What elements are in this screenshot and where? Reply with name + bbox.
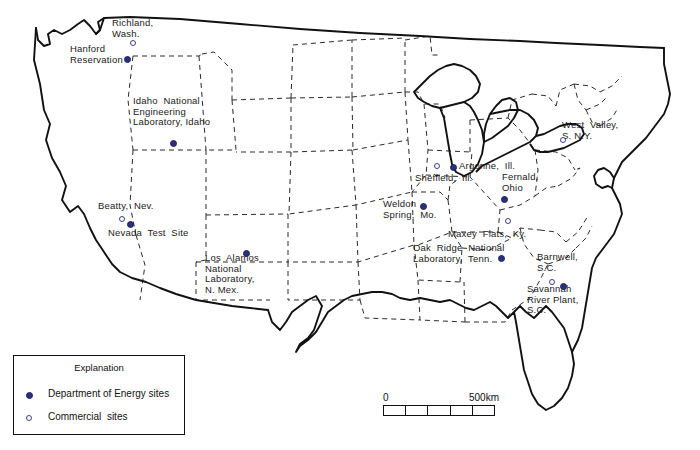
site-marker-barnwell-sc[interactable] (549, 279, 555, 285)
scale-segment (451, 406, 473, 415)
scale-segment (473, 406, 494, 415)
site-marker-sheffield-ill[interactable] (434, 163, 440, 169)
site-label-savannah-river-plant: Savannah River Plant, S.C. (527, 284, 579, 316)
scale-min-label: 0 (383, 392, 389, 403)
scale-bar: 0 500km (383, 392, 495, 416)
legend-label-doe-sites: Department of Energy sites (48, 388, 169, 399)
site-label-oak-ridge-national-lab: Oak Ridge National Laboratory, Tenn. (413, 243, 505, 264)
site-label-barnwell-sc: Barnwell, S.C. (537, 252, 578, 273)
site-label-los-alamos-national-lab: Los Alamos National Laboratory, N. Mex. (205, 253, 259, 295)
site-label-beatty-nev: Beatty, Nev. (98, 201, 154, 212)
site-label-sheffield-ill: Sheffield, Ill. (415, 173, 472, 184)
scale-bar-labels: 0 500km (383, 392, 495, 405)
site-label-nevada-test-site: Nevada Test Site (108, 228, 189, 239)
site-marker-fernald-ohio[interactable] (501, 196, 508, 203)
legend-title: Explanation (14, 362, 184, 373)
map-canvas: Richland, Wash. Hanford Reservation Idah… (0, 0, 700, 450)
site-marker-west-valley-ny[interactable] (560, 137, 566, 143)
site-label-fernald-ohio: Fernald, Ohio (502, 172, 538, 193)
site-label-idaho-national-lab: Idaho National Engineering Laboratory, I… (133, 96, 210, 128)
scale-bar-graphic (383, 405, 495, 416)
legend-panel: Explanation Department of Energy sites C… (13, 355, 185, 435)
site-marker-nevada-test-site[interactable] (127, 221, 134, 228)
site-label-argonne-ill: Argonne, Ill. (459, 161, 515, 172)
scale-segment (406, 406, 428, 415)
site-label-richland-wash: Richland, Wash. (112, 18, 153, 39)
legend-label-commercial-sites: Commercial sites (48, 411, 127, 422)
state-borders-layer (128, 36, 622, 322)
site-marker-weldon-spring-mo[interactable] (420, 203, 427, 210)
site-marker-argonne-ill[interactable] (450, 164, 457, 171)
site-marker-maxey-flats-ky[interactable] (505, 218, 511, 224)
site-label-weldon-spring-mo: Weldon Spring, Mo. (383, 199, 437, 220)
site-marker-beatty-nev[interactable] (119, 216, 125, 222)
site-label-maxey-flats-ky: Maxey Flats, Ky. (448, 229, 526, 240)
site-marker-hanford-reservation[interactable] (124, 56, 131, 63)
scale-max-label: 500km (469, 392, 499, 403)
legend-filled-dot-icon (26, 392, 33, 399)
scale-segment (428, 406, 450, 415)
scale-segment (384, 406, 406, 415)
site-marker-oak-ridge-national-lab[interactable] (498, 255, 505, 262)
site-marker-savannah-river-plant[interactable] (560, 283, 567, 290)
site-marker-richland-wash[interactable] (130, 40, 136, 46)
site-marker-los-alamos-national-lab[interactable] (243, 250, 250, 257)
site-label-west-valley-ny: West Valley, S. N.Y. (562, 120, 618, 141)
legend-open-circle-icon (26, 415, 32, 421)
site-marker-idaho-national-lab[interactable] (170, 140, 177, 147)
site-label-hanford-reservation: Hanford Reservation (70, 44, 123, 65)
